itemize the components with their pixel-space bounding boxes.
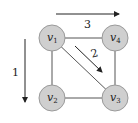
graph-diagram: v1 v4 v2 v3 1 2 3: [0, 0, 138, 123]
arrow-2: 2: [75, 46, 102, 72]
arrow-1-label: 1: [12, 66, 19, 79]
arrow-1: 1: [12, 39, 25, 102]
node-v2: v2: [39, 85, 65, 111]
node-v1: v1: [39, 25, 65, 51]
arrow-3-label: 3: [84, 18, 91, 31]
node-v4: v4: [102, 25, 128, 51]
node-v3: v3: [102, 85, 128, 111]
arrow-2-label: 2: [89, 46, 99, 60]
